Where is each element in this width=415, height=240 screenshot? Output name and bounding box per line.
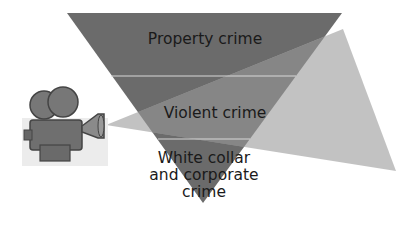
level-white-collar-line-2: and corporate (148, 167, 260, 184)
level-white-collar-line-1: White collar (148, 150, 260, 167)
movie-camera-icon (22, 87, 108, 166)
level-white-collar: White collar and corporate crime (148, 150, 260, 201)
level-property-crime: Property crime (130, 32, 280, 47)
level-white-collar-line-3: crime (148, 184, 260, 201)
level-violent-crime: Violent crime (155, 106, 275, 121)
